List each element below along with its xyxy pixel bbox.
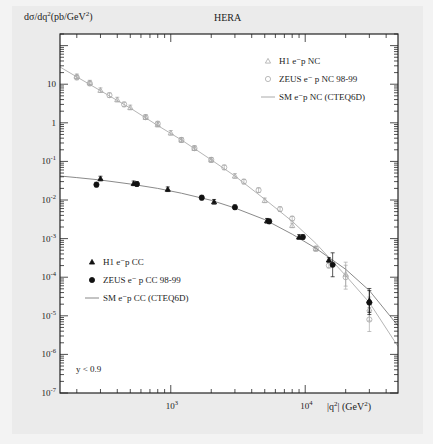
legend-label: H1 e⁻p NC	[279, 56, 320, 66]
legend-label: SM e⁻p CC (CTEQ6D)	[103, 293, 189, 303]
plot-background	[60, 34, 398, 393]
data-point	[267, 219, 272, 224]
y-tick-label: 10-2	[42, 193, 56, 205]
legend-label: ZEUS e⁻ p NC 98-99	[279, 74, 358, 84]
x-axis-label: |q2| (GeV2)	[327, 400, 371, 413]
y-tick-label: 10-5	[42, 309, 56, 321]
x-tick-label: 104	[300, 399, 313, 411]
plot-area	[60, 34, 398, 393]
y-tick-label: 10-7	[42, 386, 57, 398]
y-tick-label: 10-3	[42, 232, 56, 244]
data-point	[300, 234, 305, 239]
legend-label: ZEUS e⁻ p CC 98-99	[103, 275, 181, 285]
legend-label: SM e⁻p NC (CTEQ6D)	[279, 92, 365, 102]
x-tick-label: 103	[166, 399, 178, 411]
y-tick-label: 10-4	[42, 270, 57, 282]
data-point	[367, 300, 372, 305]
data-point	[330, 262, 335, 267]
data-point	[199, 195, 204, 200]
chart-title: HERA	[214, 12, 242, 23]
y-tick-label: 10-6	[42, 347, 57, 359]
data-point	[94, 182, 99, 187]
data-point	[232, 205, 237, 210]
legend-label: H1 e⁻p CC	[103, 257, 144, 267]
y-tick-label: 1	[52, 118, 57, 128]
chart: 10-710-610-510-410-310-210-1110103104 dσ…	[0, 0, 433, 444]
y-tick-label: 10	[47, 79, 57, 89]
data-point	[134, 181, 139, 186]
cut-annotation: y < 0.9	[76, 364, 102, 374]
legend-marker-filled-circle-icon	[89, 277, 94, 282]
y-axis-label: dσ/dq2(pb/GeV2)	[24, 10, 93, 23]
y-tick-label: 10-1	[42, 154, 56, 166]
